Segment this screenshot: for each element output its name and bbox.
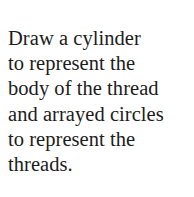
instruction-text-block: Draw a cylinder to represent the body of…: [8, 26, 194, 177]
text-line-5: to represent the: [8, 127, 194, 152]
text-line-2: to represent the: [8, 51, 194, 76]
text-line-3: body of the thread: [8, 76, 194, 101]
text-line-6: threads.: [8, 152, 194, 177]
text-line-4: and arrayed circles: [8, 102, 194, 127]
text-line-1: Draw a cylinder: [8, 26, 194, 51]
page-canvas: Draw a cylinder to represent the body of…: [0, 0, 194, 197]
